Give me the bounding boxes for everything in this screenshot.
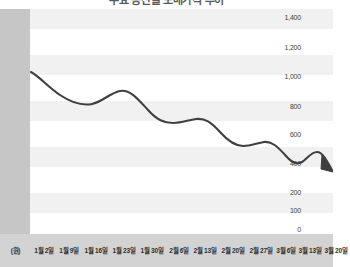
x-tick-label: 3월 13일 bbox=[296, 245, 324, 255]
y-tick-label: 1,000 bbox=[275, 73, 301, 81]
x-tick-label: 2월 13일 bbox=[191, 245, 219, 255]
y-tick-label: 100 bbox=[275, 207, 301, 215]
chart-title: 주요 농산물 도매가격 추이 bbox=[0, 0, 333, 7]
y-tick-label: 200 bbox=[275, 189, 301, 197]
plot-area bbox=[30, 9, 333, 234]
x-tick-label: 1월 9일 bbox=[56, 245, 82, 255]
y-tick-label: 0 bbox=[275, 226, 301, 234]
y-tick-label: 600 bbox=[275, 131, 301, 139]
x-tick-label: 1월 30일 bbox=[138, 245, 166, 255]
x-tick-label: 1월 23일 bbox=[110, 245, 138, 255]
y-tick-label: 400 bbox=[275, 160, 301, 168]
y-tick-label: 1,200 bbox=[275, 44, 301, 52]
x-tick-label: 3월 6일 bbox=[274, 245, 298, 255]
y-tick-label: 1,400 bbox=[275, 14, 301, 22]
x-tick-label: 2월 27일 bbox=[247, 245, 275, 255]
y-tick-label: 800 bbox=[275, 103, 301, 111]
x-axis-unit-label: (원) bbox=[1, 245, 30, 255]
x-tick-label: 1월 2일 bbox=[31, 245, 57, 255]
y-axis bbox=[0, 9, 30, 234]
x-tick-label: 2월 20일 bbox=[219, 245, 247, 255]
x-tick-label: 3월 20일 bbox=[322, 245, 350, 255]
series-path bbox=[31, 72, 332, 170]
series-line bbox=[30, 9, 333, 234]
x-tick-label: 1월 16일 bbox=[82, 245, 110, 255]
x-tick-label: 2월 6일 bbox=[166, 245, 192, 255]
arrow-head-icon bbox=[321, 155, 333, 172]
